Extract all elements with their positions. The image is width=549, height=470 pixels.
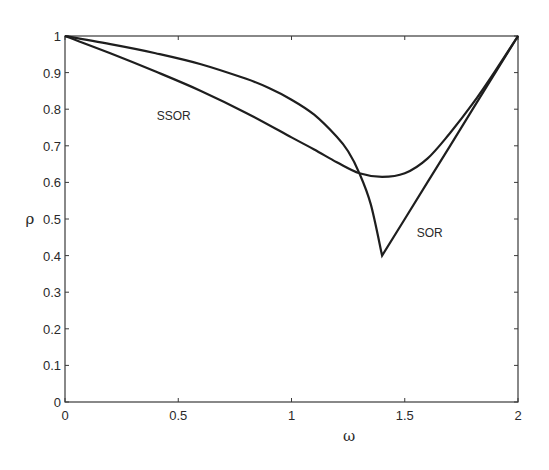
plot-area — [65, 36, 518, 402]
chart: 00.511.52 00.10.20.30.40.50.60.70.80.91 … — [0, 0, 549, 470]
y-tick-label: 0.7 — [43, 139, 61, 154]
series-line-ssor — [65, 36, 518, 177]
y-tick-label: 0.3 — [43, 285, 61, 300]
y-tick-label: 0 — [54, 395, 61, 410]
x-axis-ticks: 00.511.52 — [61, 36, 521, 423]
y-axis-ticks: 00.10.20.30.40.50.60.70.80.91 — [43, 29, 518, 410]
series-line-sor — [65, 36, 518, 256]
x-tick-label: 2 — [514, 408, 521, 423]
y-tick-label: 0.2 — [43, 322, 61, 337]
x-tick-label: 0.5 — [169, 408, 187, 423]
label-sor: SOR — [417, 226, 443, 240]
y-tick-label: 0.4 — [43, 249, 61, 264]
x-tick-label: 1 — [288, 408, 295, 423]
x-tick-label: 0 — [61, 408, 68, 423]
y-tick-label: 0.9 — [43, 66, 61, 81]
y-tick-label: 0.5 — [43, 212, 61, 227]
y-tick-label: 0.6 — [43, 175, 61, 190]
x-tick-label: 1.5 — [396, 408, 414, 423]
y-tick-label: 0.1 — [43, 358, 61, 373]
series-lines — [65, 36, 518, 256]
y-tick-label: 0.8 — [43, 102, 61, 117]
y-tick-label: 1 — [54, 29, 61, 44]
x-axis-label: ω — [343, 427, 355, 445]
label-ssor: SSOR — [157, 109, 191, 123]
y-axis-label: ρ — [26, 210, 35, 228]
axes-frame — [65, 36, 518, 402]
